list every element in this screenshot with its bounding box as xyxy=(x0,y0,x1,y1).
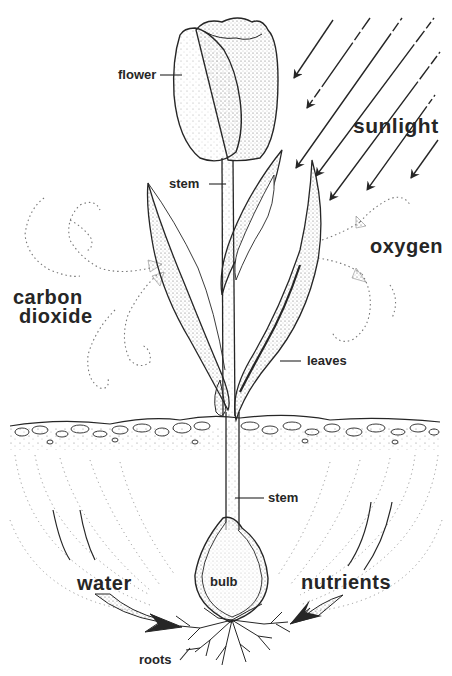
label-flower: flower xyxy=(118,68,156,81)
nutrients-arrow xyxy=(290,502,392,624)
oxygen-arrowhead-1 xyxy=(356,216,366,228)
label-sunlight: sunlight xyxy=(353,115,439,136)
oxygen-swirls xyxy=(318,197,410,341)
underground-stem xyxy=(226,412,239,530)
soil-surface xyxy=(8,415,440,450)
label-water: water xyxy=(77,573,132,593)
label-roots: roots xyxy=(139,653,172,666)
label-oxygen: oxygen xyxy=(370,236,443,256)
tulip-flower xyxy=(174,18,278,161)
label-bulb: bulb xyxy=(210,575,237,588)
label-leaves: leaves xyxy=(307,354,347,367)
label-stem-upper: stem xyxy=(169,177,199,190)
sunlight-rays xyxy=(294,18,440,200)
label-carbon: carbon xyxy=(13,287,83,307)
water-arrow xyxy=(53,510,182,632)
label-dioxide: dioxide xyxy=(19,306,93,326)
label-nutrients: nutrients xyxy=(301,572,391,592)
oxygen-arrowhead-2 xyxy=(352,268,366,282)
label-stem-lower: stem xyxy=(268,491,298,504)
